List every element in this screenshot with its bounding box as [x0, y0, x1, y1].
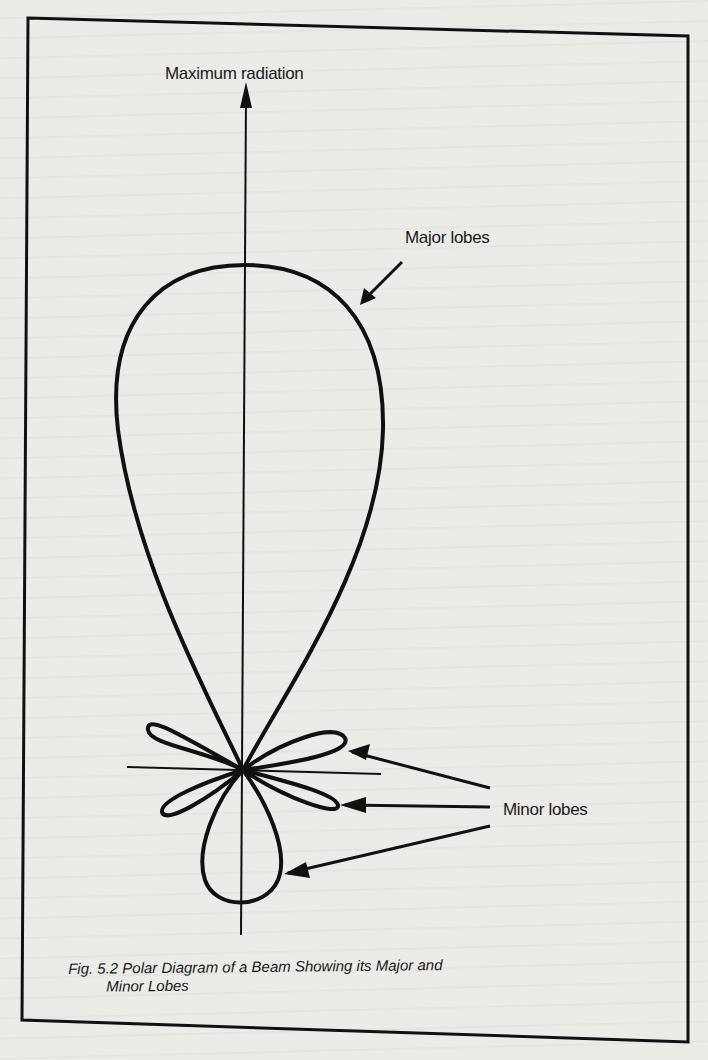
minor-lobes-pointer-3: [288, 826, 490, 873]
figure-frame: [22, 18, 688, 1042]
vertical-axis: [241, 95, 246, 935]
figure-caption: Fig. 5.2 Polar Diagram of a Beam Showing…: [68, 956, 443, 996]
minor-lobes-pointer-1: [352, 752, 490, 788]
polar-diagram: [0, 0, 708, 1060]
minor-lobe-upper-left: [148, 724, 243, 770]
maximum-radiation-arrowhead: [240, 82, 252, 108]
major-lobes-label: Major lobes: [405, 228, 490, 248]
minor-lobe-upper-right: [243, 732, 346, 770]
minor-lobes-arrowhead-1: [348, 744, 370, 760]
major-lobe: [116, 265, 383, 770]
maximum-radiation-label: Maximum radiation: [165, 64, 304, 84]
minor-lobes-arrowhead-2: [340, 797, 366, 813]
minor-lobe-lower-left: [162, 770, 243, 815]
caption-line-1: Fig. 5.2 Polar Diagram of a Beam Showing…: [68, 956, 443, 977]
minor-lobes-pointer-2: [345, 805, 490, 807]
minor-lobes-label: Minor lobes: [503, 800, 588, 820]
minor-lobes-arrowhead-3: [284, 862, 310, 878]
